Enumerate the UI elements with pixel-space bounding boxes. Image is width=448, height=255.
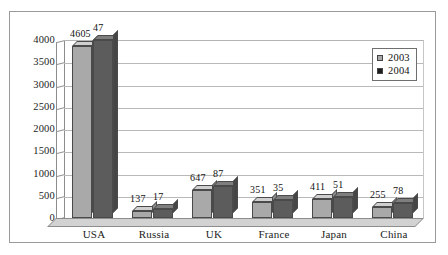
bar-series-container: 4605 47 137 17 xyxy=(64,40,424,218)
bar-group-russia: 137 17 xyxy=(124,40,184,218)
y-tick-label: 4000 xyxy=(15,35,55,46)
x-tick-label-japan: Japan xyxy=(304,228,364,246)
bar-value-label: 17 xyxy=(153,192,163,202)
x-tick-label-russia: Russia xyxy=(124,228,184,246)
bar-2004[interactable] xyxy=(333,197,353,218)
bar-value-label: 4605 xyxy=(70,29,91,39)
bar-2004[interactable] xyxy=(93,40,113,218)
x-tick-label-usa: USA xyxy=(64,228,124,246)
bar-2004[interactable] xyxy=(213,186,233,218)
bar-value-label: 647 xyxy=(190,173,206,183)
bar-group-usa: 4605 47 xyxy=(64,40,124,218)
bar-front-face xyxy=(153,209,173,218)
bar-value-label: 351 xyxy=(250,185,266,195)
bar-side-face xyxy=(353,187,358,213)
y-tick-label: 500 xyxy=(15,191,55,202)
bar-group-japan: 411 51 xyxy=(304,40,364,218)
bar-front-face xyxy=(312,199,332,218)
bar-front-face xyxy=(393,203,413,218)
x-tick-label-china: China xyxy=(364,228,424,246)
bar-front-face xyxy=(213,186,233,218)
bar-front-face xyxy=(252,202,272,218)
bar-value-label: 47 xyxy=(93,23,103,33)
x-axis-category-labels: USA Russia UK France Japan China xyxy=(64,228,424,246)
chart-frame: 4000 3500 3000 2500 2000 1500 1000 500 0 xyxy=(9,11,436,243)
x-axis-floor xyxy=(47,218,424,227)
bar-value-label: 87 xyxy=(213,169,223,179)
legend-item-2004[interactable]: 2004 xyxy=(377,64,410,77)
bar-side-face xyxy=(173,199,178,213)
bar-front-face xyxy=(93,40,113,218)
legend-swatch-icon xyxy=(377,68,383,74)
bar-value-label: 51 xyxy=(333,180,343,190)
chart-legend[interactable]: 2003 2004 xyxy=(372,48,417,81)
bar-2003[interactable] xyxy=(312,199,332,218)
y-axis-tick-labels: 4000 3500 3000 2500 2000 1500 1000 500 0 xyxy=(10,40,55,218)
bar-front-face xyxy=(333,197,353,218)
y-tick-label: 1500 xyxy=(15,146,55,157)
bar-side-face xyxy=(233,176,238,213)
bar-2004[interactable] xyxy=(273,200,293,218)
bar-value-label: 411 xyxy=(310,182,325,192)
x-tick-label-france: France xyxy=(244,228,304,246)
y-tick-label: 2500 xyxy=(15,102,55,113)
legend-swatch-icon xyxy=(377,55,383,61)
bar-2003[interactable] xyxy=(132,211,152,218)
bar-side-face xyxy=(293,190,298,213)
y-tick-label: 1000 xyxy=(15,169,55,180)
bar-2004[interactable] xyxy=(153,209,173,218)
bar-group-france: 351 35 xyxy=(244,40,304,218)
bar-front-face xyxy=(132,211,152,218)
bar-group-uk: 647 87 xyxy=(184,40,244,218)
legend-label: 2004 xyxy=(388,65,410,76)
y-tick-label: 3500 xyxy=(15,57,55,68)
bar-side-face xyxy=(113,30,118,213)
bar-front-face xyxy=(372,207,392,218)
bar-value-label: 35 xyxy=(273,183,283,193)
bar-value-label: 137 xyxy=(130,194,146,204)
bar-front-face xyxy=(72,46,92,218)
bar-2003[interactable] xyxy=(252,202,272,218)
bar-2004[interactable] xyxy=(393,203,413,218)
legend-item-2003[interactable]: 2003 xyxy=(377,51,410,64)
bar-2003[interactable] xyxy=(192,190,212,218)
bar-front-face xyxy=(273,200,293,218)
y-tick-label: 3000 xyxy=(15,80,55,91)
y-tick-label: 2000 xyxy=(15,124,55,135)
bar-value-label: 78 xyxy=(393,186,403,196)
bar-2003[interactable] xyxy=(72,46,92,218)
bar-side-face xyxy=(413,193,418,213)
bar-2003[interactable] xyxy=(372,207,392,218)
bar-value-label: 255 xyxy=(370,190,386,200)
y-tick-label: 0 xyxy=(15,213,55,224)
legend-label: 2003 xyxy=(388,52,410,63)
bar-front-face xyxy=(192,190,212,218)
x-tick-label-uk: UK xyxy=(184,228,244,246)
